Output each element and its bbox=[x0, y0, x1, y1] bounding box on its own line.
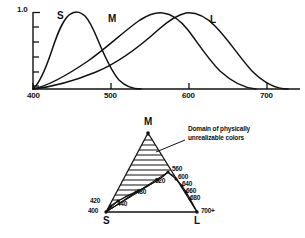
wavelength-label-680: 680 bbox=[190, 195, 200, 202]
wavelength-label-480: 480 bbox=[136, 189, 146, 196]
wavelength-label-400: 400 bbox=[88, 208, 98, 215]
curve-s bbox=[33, 12, 141, 89]
figure-root: 1.0 400 500 600 700 S M L bbox=[0, 0, 305, 238]
vertex-label-s: S bbox=[103, 216, 110, 226]
wavelength-label-560: 560 bbox=[172, 166, 182, 173]
annotation-line-1: Domain of physically bbox=[188, 124, 250, 133]
curve-m bbox=[33, 13, 256, 89]
wavelength-label-420: 420 bbox=[90, 198, 100, 205]
cone-response-panel: 1.0 400 500 600 700 S M L bbox=[0, 0, 305, 115]
wavelength-label-440: 440 bbox=[117, 201, 127, 208]
wavelength-label-520: 520 bbox=[155, 178, 165, 185]
y-axis-ticks bbox=[33, 13, 40, 87]
y-axis-max-label: 1.0 bbox=[17, 6, 28, 14]
chromaticity-panel: M S L Domain of physically unrealizable … bbox=[0, 113, 305, 238]
curve-label-m: M bbox=[108, 14, 116, 24]
x-tick-label-400: 400 bbox=[27, 92, 40, 100]
curve-l bbox=[33, 13, 288, 89]
curve-label-l: L bbox=[210, 15, 216, 25]
curve-label-s: S bbox=[57, 11, 64, 21]
vertex-label-m: M bbox=[144, 117, 152, 127]
x-tick-label-500: 500 bbox=[104, 92, 117, 100]
x-axis-ticks bbox=[33, 83, 267, 89]
wavelength-label-700plus: 700+ bbox=[201, 208, 214, 215]
annotation-leader-line bbox=[156, 140, 185, 152]
unrealizable-domain-annotation: Domain of physically unrealizable colors bbox=[188, 124, 250, 143]
x-tick-label-600: 600 bbox=[182, 92, 195, 100]
x-tick-label-700: 700 bbox=[260, 92, 273, 100]
annotation-line-2: unrealizable colors bbox=[188, 133, 250, 142]
vertex-label-l: L bbox=[194, 216, 200, 226]
chromaticity-svg bbox=[0, 113, 305, 238]
